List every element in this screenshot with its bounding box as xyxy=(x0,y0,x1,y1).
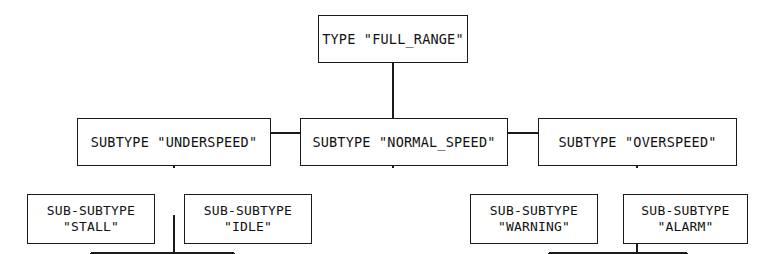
node-underspeed-label: SUBTYPE "UNDERSPEED" xyxy=(91,134,258,150)
node-underspeed[interactable]: SUBTYPE "UNDERSPEED" xyxy=(77,118,271,166)
node-alarm-keyword: SUB-SUBTYPE xyxy=(641,203,729,219)
type-hierarchy-diagram: TYPE "FULL_RANGE" SUBTYPE "UNDERSPEED" S… xyxy=(0,0,777,254)
node-full-range-label: TYPE "FULL_RANGE" xyxy=(322,31,464,47)
node-full-range[interactable]: TYPE "FULL_RANGE" xyxy=(318,15,468,63)
node-stall-keyword: SUB-SUBTYPE xyxy=(47,203,135,219)
node-idle-keyword: SUB-SUBTYPE xyxy=(204,203,292,219)
node-warning-value: "WARNING" xyxy=(498,219,570,235)
node-idle-value: "IDLE" xyxy=(224,219,272,235)
node-alarm[interactable]: SUB-SUBTYPE "ALARM" xyxy=(623,194,748,244)
node-normal-speed-label: SUBTYPE "NORMAL_SPEED" xyxy=(312,134,495,150)
node-overspeed-label: SUBTYPE "OVERSPEED" xyxy=(558,134,716,150)
node-warning[interactable]: SUB-SUBTYPE "WARNING" xyxy=(470,194,598,244)
node-alarm-value: "ALARM" xyxy=(657,219,713,235)
node-warning-keyword: SUB-SUBTYPE xyxy=(490,203,578,219)
node-stall-value: "STALL" xyxy=(63,219,119,235)
node-overspeed[interactable]: SUBTYPE "OVERSPEED" xyxy=(538,118,737,166)
node-normal-speed[interactable]: SUBTYPE "NORMAL_SPEED" xyxy=(300,118,508,166)
node-stall[interactable]: SUB-SUBTYPE "STALL" xyxy=(27,194,155,244)
node-idle[interactable]: SUB-SUBTYPE "IDLE" xyxy=(184,194,312,244)
